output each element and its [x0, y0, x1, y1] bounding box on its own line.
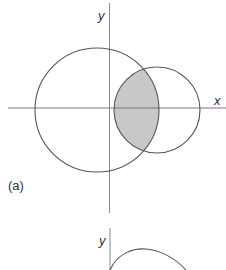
figure-caption-a: (a) — [8, 178, 24, 193]
arc-b — [110, 249, 186, 270]
y-axis-label: y — [97, 8, 106, 23]
x-axis-label: x — [213, 93, 221, 108]
diagram-canvas: y x (a) y — [0, 0, 226, 270]
y-axis-label-b: y — [98, 233, 107, 248]
shaded-intersection — [35, 48, 159, 172]
